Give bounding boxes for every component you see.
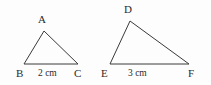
vertex-label-f: F <box>188 68 194 79</box>
triangle-abc-shape <box>24 31 78 64</box>
vertex-label-c: C <box>74 68 81 79</box>
vertex-label-d: D <box>124 4 132 15</box>
geometry-figure: A B C 2 cm D E F 3 cm <box>0 0 211 85</box>
vertex-label-a: A <box>38 14 46 25</box>
side-length-label-ef: 3 cm <box>128 69 147 79</box>
vertex-label-e: E <box>101 68 108 79</box>
vertex-label-b: B <box>16 68 23 79</box>
triangle-def-shape <box>110 21 189 64</box>
side-length-label-bc: 2 cm <box>38 69 57 79</box>
